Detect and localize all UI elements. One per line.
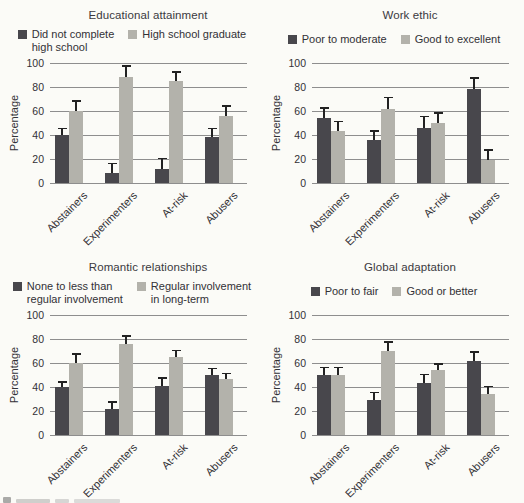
error-bar-cap <box>58 128 67 130</box>
legend-label: Poor to fair <box>325 285 379 298</box>
bar-series2 <box>431 370 445 435</box>
y-tick-label: 0 <box>300 177 306 189</box>
x-axis-label: At-risk <box>421 441 452 472</box>
y-tick-label: 20 <box>32 405 44 417</box>
error-bar-cap <box>484 386 493 388</box>
y-axis-title: Percentage <box>270 95 282 151</box>
legend-item: Good to excellent <box>401 33 501 46</box>
y-tick-label: 0 <box>38 177 44 189</box>
plot-area: 020406080100Percentage <box>312 63 509 183</box>
bar-series2 <box>69 111 83 183</box>
y-tick-label: 20 <box>294 153 306 165</box>
error-bar-cap <box>108 163 117 165</box>
y-tick-label: 100 <box>26 57 44 69</box>
bar-series2 <box>119 344 133 435</box>
x-axis-label: Abstainers <box>306 189 351 234</box>
scanned-figure-page: Educational attainmentDid not complete h… <box>0 0 524 503</box>
bar-series2 <box>481 394 495 435</box>
x-axis-label: Abstainers <box>306 441 351 486</box>
bar-series1 <box>367 140 381 183</box>
bar-series1 <box>367 400 381 435</box>
legend-swatch-series1 <box>18 30 27 39</box>
y-tick-label: 80 <box>32 333 44 345</box>
error-bar-stem <box>487 149 489 160</box>
gridline <box>50 339 247 340</box>
chart-title: Educational attainment <box>38 9 258 21</box>
y-tick-label: 40 <box>32 381 44 393</box>
x-axis-label: At-risk <box>421 189 452 220</box>
legend-label: None to less than regular involvement <box>27 280 123 306</box>
chart-work-ethic: Work ethicPoor to moderateGood to excell… <box>262 0 524 251</box>
plot-area: 020406080100Percentage <box>50 63 247 183</box>
error-bar-stem <box>387 97 389 109</box>
chart-title: Global adaptation <box>300 261 520 273</box>
error-bar-cap <box>320 367 329 369</box>
y-tick-label: 100 <box>288 57 306 69</box>
legend-swatch-series2 <box>128 30 137 39</box>
error-bar-cap <box>72 100 81 102</box>
y-axis-title: Percentage <box>8 347 20 403</box>
gridline <box>50 87 247 88</box>
error-bar-cap <box>334 121 343 123</box>
bar-series1 <box>417 383 431 435</box>
gridline <box>312 435 509 436</box>
bar-series1 <box>417 128 431 183</box>
error-bar-cap <box>222 373 231 375</box>
gridline <box>312 63 509 64</box>
error-bar-cap <box>484 149 493 151</box>
legend-swatch-series1 <box>311 287 320 296</box>
error-bar-cap <box>384 341 393 343</box>
error-bar-stem <box>125 65 127 77</box>
bar-series1 <box>55 387 69 435</box>
cutoff-text-mark <box>3 497 11 503</box>
y-tick-label: 20 <box>32 153 44 165</box>
x-axis-label: Abstainers <box>44 441 89 486</box>
error-bar-stem <box>437 112 439 123</box>
error-bar-stem <box>323 107 325 118</box>
error-bar-cap <box>420 116 429 118</box>
bar-series2 <box>381 351 395 435</box>
legend-item: None to less than regular involvement <box>13 280 123 306</box>
legend-item: Did not complete high school <box>18 28 115 54</box>
error-bar-cap <box>470 77 479 79</box>
error-bar-stem <box>423 116 425 128</box>
error-bar-cap <box>172 71 181 73</box>
legend: Poor to moderateGood to excellent <box>270 33 518 46</box>
error-bar-cap <box>172 350 181 352</box>
bar-series2 <box>219 379 233 435</box>
error-bar-stem <box>225 105 227 116</box>
bar-series1 <box>155 169 169 183</box>
legend-label: Regular involvement in long-term <box>151 280 251 306</box>
y-axis-title: Percentage <box>270 347 282 403</box>
x-axis-label: Abusers <box>202 441 239 478</box>
bar-series1 <box>317 375 331 435</box>
y-tick-label: 60 <box>294 105 306 117</box>
bar-series2 <box>481 160 495 183</box>
y-tick-label: 40 <box>294 129 306 141</box>
x-axis-label: At-risk <box>159 441 190 472</box>
legend-label: Poor to moderate <box>302 33 387 46</box>
y-tick-label: 40 <box>294 381 306 393</box>
bar-series1 <box>155 386 169 435</box>
bar-series2 <box>69 363 83 435</box>
bar-series1 <box>105 173 119 183</box>
y-tick-label: 0 <box>38 429 44 441</box>
bar-series2 <box>331 375 345 435</box>
error-bar-cap <box>434 112 443 114</box>
error-bar-cap <box>420 374 429 376</box>
bar-series2 <box>219 116 233 183</box>
bar-series2 <box>169 357 183 435</box>
bar-series1 <box>105 409 119 435</box>
legend-item: Poor to moderate <box>288 33 387 46</box>
error-bar-cap <box>58 381 67 383</box>
chart-educational-attainment: Educational attainmentDid not complete h… <box>0 0 262 251</box>
legend-swatch-series1 <box>288 35 297 44</box>
legend: None to less than regular involvementReg… <box>8 280 256 306</box>
y-tick-label: 20 <box>294 405 306 417</box>
x-axis-label: Experimenters <box>343 189 402 248</box>
legend-item: High school graduate <box>128 28 246 54</box>
bar-series2 <box>381 109 395 183</box>
y-tick-label: 60 <box>294 357 306 369</box>
error-bar-cap <box>334 367 343 369</box>
gridline <box>312 87 509 88</box>
